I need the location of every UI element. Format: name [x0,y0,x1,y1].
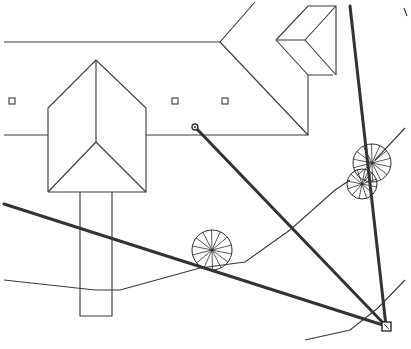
roof-diagonal-main [220,42,308,135]
roof-lines-layer [4,2,407,340]
gable-hip-right [96,142,146,192]
path-curve-right [375,128,405,160]
site-plan-drawing [0,0,411,349]
ridge-top-left [4,2,255,42]
gable-hip-left [48,142,96,192]
walkway [80,192,112,316]
dormer-lower [276,40,308,75]
arc-top-right [404,8,407,16]
viewpoint-marker-dot [194,126,196,128]
sight-lines-layer [4,6,386,326]
eave-line-mid [146,75,333,135]
window-marker-2 [222,98,228,104]
sight-line-vertical[interactable] [350,6,386,326]
window-marker-0 [9,98,15,104]
trees-layer [192,144,391,270]
dormer-lower-2 [305,40,336,75]
tree-right-upper-icon [353,144,391,182]
dormer-valley [276,6,336,40]
windows-layer [9,98,228,104]
gable-outline [48,60,146,192]
tree-center-icon [192,230,232,270]
window-marker-1 [172,98,178,104]
site-plan-canvas[interactable] [0,0,411,349]
